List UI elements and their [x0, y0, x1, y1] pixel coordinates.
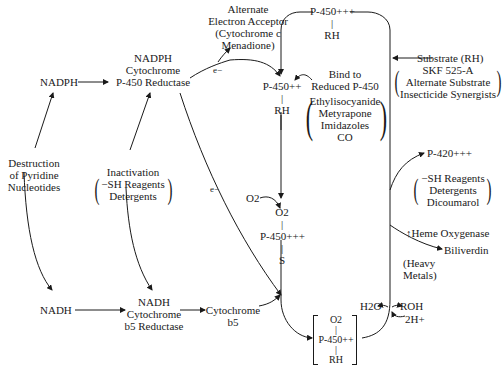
substrate-label: Substrate (RH): [417, 52, 483, 64]
biliverdin-label: Biliverdin: [444, 244, 489, 256]
p420-paren-left: (: [414, 174, 419, 204]
nadh-reductase-line1: NADH: [124, 296, 184, 308]
nadh-reductase-line3: b5 Reductase: [124, 320, 184, 332]
two-protons: 2H+: [405, 313, 425, 325]
reduced-p450-binders: Ethylisocyanide Metyrapone Imidazoles CO: [308, 95, 382, 143]
bond-line: |: [260, 218, 304, 230]
inhibitor-alt-substrate: Alternate Substrate: [398, 76, 498, 88]
rh-label: RH: [310, 29, 354, 41]
water-product: H2O: [360, 300, 381, 312]
oxygen-input: O2: [246, 192, 259, 204]
cytochrome-b5: Cytochrome b5: [205, 304, 261, 328]
nadph-p450-reductase: NADPH Cytochrome P-450 Reductase: [110, 52, 196, 88]
binders-paren-right: ): [380, 96, 387, 140]
heavy-line1: (Heavy: [403, 257, 437, 269]
bond-line: |: [258, 92, 306, 104]
destruction-of-pyridine-nucleotides: Destruction of Pyridine Nucleotides: [4, 157, 64, 193]
binder-ethylisocyanide: Ethylisocyanide: [308, 95, 382, 107]
p450-red-label: P-450++: [258, 80, 306, 92]
cause-sh-reagents: −SH Reagents: [418, 172, 488, 184]
inhibitor-synergists: Insecticide Synergists: [398, 88, 498, 100]
oxy-p450-complex: O2 | P-450+++ | S: [260, 206, 304, 266]
binder-metyrapone: Metyrapone: [308, 107, 382, 119]
p450-ox-label: P-450+++: [310, 5, 354, 17]
inactivation-line3: Detergents: [96, 190, 170, 202]
inactivation-paren-left: (: [95, 174, 100, 204]
p420-label: P-420+++: [427, 147, 472, 159]
substrate-paren-left: (: [395, 66, 400, 96]
nadph-reductase-line2: Cytochrome: [110, 64, 196, 76]
cause-detergents: Detergents: [418, 184, 488, 196]
nadh-reductase-line2: Cytochrome: [124, 308, 184, 320]
electron-label-mid: e−: [210, 183, 219, 195]
s-label: S: [260, 254, 304, 266]
nadh-label: NADH: [40, 304, 72, 316]
destruction-line2: of Pyridine: [4, 169, 64, 181]
cyt-b5-line2: b5: [205, 316, 261, 328]
alt-acceptor-line4: Menadione): [193, 39, 303, 51]
cause-dicoumarol: Dicoumarol: [418, 196, 488, 208]
bind-to-reduced-p450: Bind to Reduced P-450: [310, 68, 380, 92]
o2-label: O2: [260, 206, 304, 218]
bond-line: |: [260, 242, 304, 254]
heme-oxygenase-label: ↑Heme Oxygenase: [406, 227, 489, 239]
substrate-inhibitors: SKF 525-A Alternate Substrate Insecticid…: [398, 64, 498, 100]
rh-label: RH: [314, 355, 358, 365]
inactivation: Inactivation −SH Reagents Detergents: [96, 166, 170, 202]
binder-imidazoles: Imidazoles: [308, 119, 382, 131]
heavy-line2: Metals): [403, 269, 437, 281]
peroxy-p450-complex: O2 | P-450++ | RH: [314, 315, 358, 365]
nadh-cytochrome-b5-reductase: NADH Cytochrome b5 Reductase: [124, 296, 184, 332]
alt-acceptor-line2: Electron Acceptor: [193, 15, 303, 27]
destruction-line3: Nucleotides: [4, 181, 64, 193]
p450-cycle-diagram: NADPH NADPH Cytochrome P-450 Reductase A…: [0, 0, 504, 367]
inactivation-paren-right: ): [168, 174, 173, 204]
cyt-b5-line1: Cytochrome: [205, 304, 261, 316]
nadph-reductase-line3: P-450 Reductase: [110, 76, 196, 88]
bind-line1: Bind to: [310, 68, 380, 80]
alternate-electron-acceptor: Alternate Electron Acceptor (Cytochrome …: [193, 3, 303, 51]
alt-acceptor-line3: (Cytochrome c: [193, 27, 303, 39]
nadph-reductase-line1: NADPH: [110, 52, 196, 64]
destruction-line1: Destruction: [4, 157, 64, 169]
p450-oxidized-rh: P-450+++ | RH: [310, 5, 354, 41]
heavy-metals: (Heavy Metals): [403, 257, 437, 281]
p450-label: P-450+++: [260, 230, 304, 242]
rh-label: RH: [258, 104, 306, 116]
alt-acceptor-line1: Alternate: [193, 3, 303, 15]
inhibitor-skf525a: SKF 525-A: [398, 64, 498, 76]
p420-paren-right: ): [487, 174, 492, 204]
inactivation-line1: Inactivation: [96, 166, 170, 178]
electron-label-top: e−: [213, 64, 222, 76]
p450-reduced-rh: P-450++ | RH: [258, 80, 306, 116]
inactivation-line2: −SH Reagents: [96, 178, 170, 190]
bind-line2: Reduced P-450: [310, 80, 380, 92]
nadph-label: NADPH: [40, 76, 78, 88]
binder-co: CO: [308, 131, 382, 143]
substrate-paren-right: ): [497, 66, 502, 96]
binders-paren-left: (: [306, 96, 313, 140]
bond-line: |: [310, 17, 354, 29]
p420-causes: −SH Reagents Detergents Dicoumarol: [418, 172, 488, 208]
roh-product: ROH: [400, 300, 423, 312]
